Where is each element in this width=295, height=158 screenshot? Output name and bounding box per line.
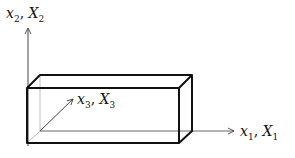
x2-axis-label: x2, X2 bbox=[6, 6, 44, 24]
x3-axis bbox=[40, 99, 73, 131]
x1-axis-label: x1, X1 bbox=[240, 124, 278, 142]
x3-axis-label: x3, X3 bbox=[77, 92, 115, 110]
